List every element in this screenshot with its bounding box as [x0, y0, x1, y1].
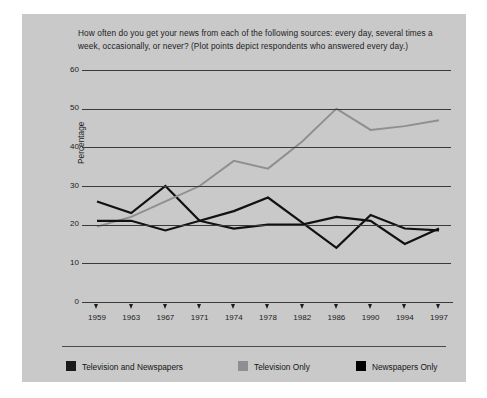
x-axis-tick-1982: [300, 304, 304, 309]
gridline-30: [86, 186, 451, 187]
legend-item-newspapers-only[interactable]: Newspapers Only: [356, 356, 437, 370]
legend-swatch-icon: [356, 361, 366, 371]
y-axis-tick-40: [82, 147, 86, 148]
legend-label: Television Only: [254, 362, 310, 372]
y-axis-label-30: 30: [55, 181, 79, 190]
x-axis-tick-1974: [231, 304, 235, 309]
series-line-television-only: [97, 109, 439, 227]
series-line-television-and-newspapers: [97, 186, 439, 248]
y-axis-tick-30: [82, 186, 86, 187]
legend-label: Television and Newspapers: [82, 362, 183, 372]
plot-area: Percentage 0102030405060 195919631967197…: [86, 70, 451, 302]
x-axis-tick-1971: [197, 304, 201, 309]
y-axis-label-50: 50: [55, 103, 79, 112]
chart-question-text: How often do you get your news from each…: [78, 27, 438, 52]
y-axis-label-20: 20: [55, 219, 79, 228]
x-axis-tick-1986: [334, 304, 338, 309]
gridline-10: [86, 263, 451, 264]
y-axis-tick-20: [82, 225, 86, 226]
legend-divider: [62, 346, 446, 347]
y-axis-tick-10: [82, 263, 86, 264]
chart-figure: How often do you get your news from each…: [22, 14, 466, 382]
y-axis-label-0: 0: [55, 297, 79, 306]
legend-swatch-icon: [66, 361, 76, 371]
legend-item-television-only[interactable]: Television Only: [238, 356, 310, 370]
x-axis-tick-1990: [368, 304, 372, 309]
legend-swatch-icon: [238, 361, 248, 371]
gridline-20: [86, 225, 451, 226]
chart-legend: Television and NewspapersTelevision Only…: [66, 356, 456, 372]
x-axis-line: [86, 302, 453, 303]
y-axis-label-60: 60: [55, 65, 79, 74]
y-axis-tick-50: [82, 109, 86, 110]
gridline-60: [86, 70, 451, 71]
x-axis-tick-1994: [402, 304, 406, 309]
y-axis-tick-60: [82, 70, 86, 71]
gridline-40: [86, 147, 451, 148]
x-axis-tick-1967: [163, 304, 167, 309]
y-axis-label-10: 10: [55, 258, 79, 267]
x-axis-label-1997: 1997: [419, 313, 459, 322]
x-axis-tick-1978: [265, 304, 269, 309]
legend-label: Newspapers Only: [372, 362, 437, 372]
legend-item-television-and-newspapers[interactable]: Television and Newspapers: [66, 356, 183, 370]
x-axis-tick-1959: [94, 304, 98, 309]
x-axis-tick-1997: [436, 304, 440, 309]
x-axis-tick-1963: [129, 304, 133, 309]
gridline-50: [86, 109, 451, 110]
y-axis-label-40: 40: [55, 142, 79, 151]
